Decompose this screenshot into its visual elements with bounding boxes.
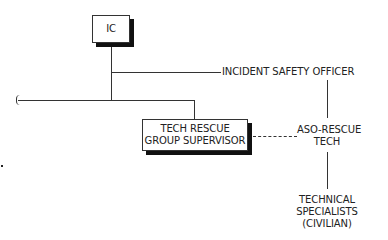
tech-rescue-group-supervisor-box: TECH RESCUE GROUP SUPERVISOR <box>142 119 248 151</box>
specialists-line-1: TECHNICAL <box>295 194 359 206</box>
tech-rescue-line-2: GROUP SUPERVISOR <box>145 135 246 147</box>
aso-to-specialists-line <box>327 152 328 189</box>
incident-safety-officer-label: INCIDENT SAFETY OFFICER <box>222 66 350 78</box>
ic-box: IC <box>92 15 130 43</box>
tech-rescue-line-1: TECH RESCUE <box>160 123 229 135</box>
ic-label: IC <box>106 23 116 35</box>
technical-specialists-label: TECHNICAL SPECIALISTS (CIVILIAN) <box>295 194 359 230</box>
tech-rescue-drop-line <box>194 100 195 119</box>
specialists-line-3: (CIVILIAN) <box>295 218 359 230</box>
main-branch-line <box>18 100 195 101</box>
aso-rescue-tech-label: ASO-RESCUE TECH <box>297 124 357 148</box>
ic-trunk-line <box>111 47 112 100</box>
left-bracket-mark <box>16 95 21 105</box>
iso-to-aso-line <box>327 80 328 118</box>
iso-connector-line <box>111 72 221 73</box>
stray-dot-mark <box>1 165 3 167</box>
aso-line-1: ASO-RESCUE <box>297 124 357 136</box>
aso-dashed-line <box>253 136 297 137</box>
aso-line-2: TECH <box>297 136 357 148</box>
specialists-line-2: SPECIALISTS <box>295 206 359 218</box>
